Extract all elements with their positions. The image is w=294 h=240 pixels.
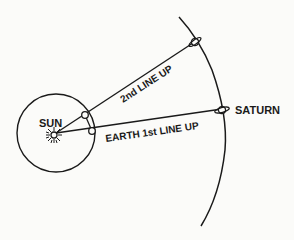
earth-position-2-icon <box>82 112 89 119</box>
saturn-position-1-icon <box>214 105 230 116</box>
saturn-line-up-diagram: SUN SATURN EARTH 1st LINE UP 2nd LINE UP <box>0 0 294 240</box>
saturn-label: SATURN <box>235 104 280 116</box>
second-line-up-label: 2nd LINE UP <box>118 63 175 105</box>
sun-label: SUN <box>39 117 62 129</box>
sun-starburst-icon <box>46 127 62 143</box>
second-line-up <box>56 41 196 133</box>
earth-position-1-icon <box>89 128 96 135</box>
